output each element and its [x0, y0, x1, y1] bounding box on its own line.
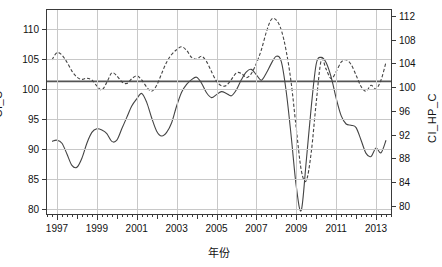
x-axis-tick-label: 1997: [46, 223, 68, 234]
x-axis-minor-tick-mark: [102, 214, 103, 217]
x-axis-minor-tick-mark: [361, 214, 362, 217]
vertical-gridline: [376, 10, 377, 214]
x-axis-minor-tick-mark: [122, 214, 123, 217]
horizontal-gridline: [47, 29, 391, 30]
vertical-gridline: [97, 10, 98, 214]
y-axis-right-tick-mark: [392, 87, 396, 88]
x-axis-minor-tick-mark: [371, 214, 372, 217]
x-axis-minor-tick-mark: [107, 214, 108, 217]
plot-area: [46, 9, 392, 215]
y-axis-left-tick-label: 105: [22, 54, 39, 65]
x-axis-minor-tick-mark: [381, 214, 382, 217]
x-axis-tick-label: 2007: [245, 223, 267, 234]
x-axis-minor-tick-mark: [276, 214, 277, 219]
x-axis-minor-tick-mark: [291, 214, 292, 217]
x-axis-major-tick-mark: [137, 214, 138, 220]
x-axis-minor-tick-mark: [182, 214, 183, 217]
x-axis-minor-tick-mark: [87, 214, 88, 217]
x-axis-major-tick-mark: [376, 214, 377, 220]
x-axis-minor-tick-mark: [311, 214, 312, 217]
x-axis-minor-tick-mark: [157, 214, 158, 219]
y-axis-left-tick-label: 80: [28, 204, 39, 215]
x-axis-minor-tick-mark: [197, 214, 198, 219]
x-axis-minor-tick-mark: [321, 214, 322, 217]
x-axis-minor-tick-mark: [236, 214, 237, 219]
x-axis-minor-tick-mark: [112, 214, 113, 217]
x-axis-title: 年份: [208, 244, 230, 260]
y-axis-right-tick-label: 100: [399, 82, 416, 93]
vertical-gridline: [256, 10, 257, 214]
x-axis-minor-tick-mark: [127, 214, 128, 217]
x-axis-minor-tick-mark: [226, 214, 227, 217]
vertical-gridline: [296, 10, 297, 214]
vertical-gridline: [137, 10, 138, 214]
y-axis-right-tick-label: 112: [399, 10, 415, 21]
x-axis-minor-tick-mark: [117, 214, 118, 219]
x-axis-minor-tick-mark: [212, 214, 213, 217]
x-axis-minor-tick-mark: [326, 214, 327, 217]
horizontal-gridline: [47, 59, 391, 60]
gridlines: [47, 10, 391, 214]
x-axis-minor-tick-mark: [241, 214, 242, 217]
y-axis-right-tick-mark: [392, 40, 396, 41]
y-axis-right-tick-mark: [392, 16, 396, 17]
x-axis-minor-tick-mark: [391, 214, 392, 217]
y-axis-left-tick-label: 110: [23, 24, 39, 35]
y-axis-right-tick-label: 108: [399, 34, 416, 45]
x-axis-minor-tick-mark: [47, 214, 48, 217]
x-axis-minor-tick-mark: [62, 214, 63, 217]
y-axis-left-tick-mark: [42, 29, 46, 30]
x-axis-minor-tick-mark: [221, 214, 222, 217]
horizontal-gridline: [47, 179, 391, 180]
y-axis-left-tick-mark: [42, 149, 46, 150]
x-axis-minor-tick-mark: [132, 214, 133, 217]
y-axis-right-tick-mark: [392, 63, 396, 64]
x-axis-minor-tick-mark: [246, 214, 247, 217]
x-axis-minor-tick-mark: [67, 214, 68, 217]
y-axis-right-tick-label: 80: [399, 200, 410, 211]
y-axis-right-tick-mark: [392, 111, 396, 112]
x-axis-minor-tick-mark: [316, 214, 317, 219]
y-axis-left-tick-mark: [42, 89, 46, 90]
y-axis-right-tick-label: 92: [399, 129, 410, 140]
y-axis-left-tick-mark: [42, 209, 46, 210]
horizontal-gridline: [47, 119, 391, 120]
x-axis-minor-tick-mark: [271, 214, 272, 217]
x-axis-minor-tick-mark: [187, 214, 188, 217]
y-axis-right-tick-mark: [392, 182, 396, 183]
x-axis-minor-tick-mark: [281, 214, 282, 217]
x-axis-minor-tick-mark: [231, 214, 232, 217]
x-axis-major-tick-mark: [57, 214, 58, 220]
y-axis-left-tick-label: 100: [22, 84, 39, 95]
x-axis-minor-tick-mark: [82, 214, 83, 217]
vertical-gridline: [336, 10, 337, 214]
x-axis-minor-tick-mark: [386, 214, 387, 217]
x-axis-major-tick-mark: [217, 214, 218, 220]
y-axis-left-tick-label: 90: [28, 144, 39, 155]
x-axis-minor-tick-mark: [346, 214, 347, 217]
x-axis-minor-tick-mark: [52, 214, 53, 217]
x-axis-major-tick-mark: [177, 214, 178, 220]
y-axis-left-tick-label: 85: [28, 174, 39, 185]
x-axis-minor-tick-mark: [261, 214, 262, 217]
x-axis-tick-label: 2003: [165, 223, 187, 234]
x-axis-minor-tick-mark: [162, 214, 163, 217]
x-axis-minor-tick-mark: [366, 214, 367, 217]
y-axis-left-tick-label: 95: [28, 114, 39, 125]
x-axis-major-tick-mark: [336, 214, 337, 220]
x-axis-tick-label: 2009: [285, 223, 307, 234]
x-axis-minor-tick-mark: [147, 214, 148, 217]
x-axis-minor-tick-mark: [167, 214, 168, 217]
x-axis-tick-label: 1999: [86, 223, 108, 234]
x-axis-minor-tick-mark: [207, 214, 208, 217]
x-axis-minor-tick-mark: [356, 214, 357, 219]
x-axis-major-tick-mark: [97, 214, 98, 220]
y-axis-right-tick-label: 84: [399, 176, 410, 187]
y-axis-left-tick-mark: [42, 179, 46, 180]
x-axis-minor-tick-mark: [286, 214, 287, 217]
chart-figure: 11010510095908580 1121081041009692888480…: [0, 0, 442, 267]
x-axis-minor-tick-mark: [251, 214, 252, 217]
y-axis-right-tick-label: 104: [399, 58, 416, 69]
x-axis-minor-tick-mark: [142, 214, 143, 217]
vertical-gridline: [217, 10, 218, 214]
